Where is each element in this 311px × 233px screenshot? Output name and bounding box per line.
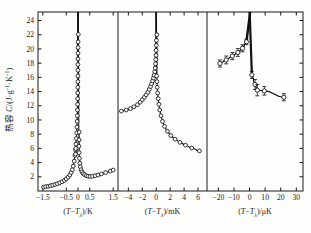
panel-kelvin-data-point xyxy=(104,171,108,175)
panel-kelvin-x-tick-label-4: 1.5 xyxy=(108,193,118,202)
panel-millikelvin-data-point xyxy=(155,85,159,89)
panel-kelvin-data-point xyxy=(76,63,80,67)
panel-kelvin-data-point xyxy=(76,32,80,36)
panel-millikelvin-data-point xyxy=(155,33,159,37)
panel-microkelvin-data-point xyxy=(240,46,244,50)
panel-kelvin-data-point xyxy=(76,51,80,55)
panel-microkelvin-x-tick-label-5: 30 xyxy=(293,193,301,202)
panel-millikelvin-data-point xyxy=(158,108,162,112)
panel-microkelvin-data-point xyxy=(244,40,248,44)
panel-kelvin-curve-right xyxy=(78,34,113,176)
panel-kelvin-data-point xyxy=(100,172,104,176)
panel-millikelvin-data-point xyxy=(119,109,123,113)
y-tick-label-20: 20 xyxy=(26,45,34,54)
panel-millikelvin-data-point xyxy=(178,140,182,144)
panel-millikelvin-data-point xyxy=(161,119,165,123)
panel-millikelvin-data-point xyxy=(165,129,169,133)
panel-microkelvin-xlabel-units: )/μK xyxy=(257,207,272,216)
panel-microkelvin-data-point xyxy=(262,89,266,93)
y-tick-label-8: 8 xyxy=(30,130,34,139)
y-tick-label-24: 24 xyxy=(26,16,34,25)
panel-microkelvin-x-tick-label-2: 0 xyxy=(248,193,252,202)
panel-microkelvin-xlabel-Tlambda: Tλ xyxy=(250,207,257,216)
panel-millikelvin-x-tick-label-1: −2 xyxy=(138,193,146,202)
x-axis-label-panel-microkelvin: (T−Tλ)/μK xyxy=(205,207,305,218)
panel-kelvin-data-point xyxy=(76,80,80,84)
panel-kelvin-data-point xyxy=(77,138,81,142)
panel-kelvin-data-point xyxy=(72,159,76,163)
panel-millikelvin-data-point xyxy=(198,149,202,153)
panel-millikelvin-data-point xyxy=(169,134,173,138)
panel-microkelvin-x-tick-label-0: −20 xyxy=(212,193,224,202)
panel-kelvin-data-point xyxy=(76,40,80,44)
panel-kelvin-data-point xyxy=(76,91,80,95)
panel-kelvin-data-point xyxy=(111,168,115,172)
panel-kelvin-xlabel-Tlambda: Tλ xyxy=(75,207,82,216)
y-tick-label-16: 16 xyxy=(26,73,34,82)
panel-kelvin-data-point xyxy=(76,85,80,89)
panel-kelvin-data-point xyxy=(76,68,80,72)
panel-millikelvin-data-point xyxy=(157,102,161,106)
x-axis-label-panel-millikelvin: (T−Tλ)/mK xyxy=(113,207,213,218)
panel-millikelvin-data-point xyxy=(156,97,160,101)
panel-kelvin-data-point xyxy=(76,74,80,78)
panel-microkelvin-data-point xyxy=(224,58,228,62)
panel-kelvin-x-tick-label-0: −1.5 xyxy=(36,193,50,202)
panel-millikelvin-data-point xyxy=(190,146,194,150)
panel-millikelvin-xlabel-units: )/mK xyxy=(163,207,180,216)
panel-millikelvin-data-point xyxy=(154,48,158,52)
panel-millikelvin-data-point xyxy=(155,74,159,78)
y-tick-label-22: 22 xyxy=(26,30,34,39)
panel-millikelvin-x-tick-label-3: 2 xyxy=(168,193,172,202)
panel-millikelvin-data-point xyxy=(154,58,158,62)
panel-kelvin-x-tick-label-3: 0.5 xyxy=(85,193,95,202)
panel-microkelvin-data-point xyxy=(230,54,234,58)
panel-kelvin-xlabel-units: )/K xyxy=(82,207,93,216)
panel-millikelvin-data-point xyxy=(159,114,163,118)
panel-kelvin-data-point xyxy=(76,97,80,101)
panel-kelvin-data-point xyxy=(76,102,80,106)
panel-kelvin-data-point xyxy=(75,119,79,123)
panel-millikelvin-data-point xyxy=(154,43,158,47)
panel-millikelvin-x-tick-label-2: 0 xyxy=(154,193,158,202)
panel-millikelvin-data-point xyxy=(154,53,158,57)
panel-millikelvin-data-point xyxy=(155,39,159,43)
panel-kelvin-data-point xyxy=(77,130,81,134)
panel-microkelvin-data-point xyxy=(236,50,240,54)
panel-millikelvin-data-point xyxy=(173,137,177,141)
panel-millikelvin-curve-right xyxy=(156,35,199,151)
panel-millikelvin-data-point xyxy=(163,124,167,128)
panel-microkelvin-x-tick-label-3: 10 xyxy=(261,193,269,202)
y-tick-label-18: 18 xyxy=(26,59,34,68)
y-tick-label-2: 2 xyxy=(30,172,34,181)
panel-millikelvin-data-point xyxy=(156,91,160,95)
panel-microkelvin-data-point xyxy=(218,61,222,65)
panel-kelvin-data-point xyxy=(76,108,80,112)
panel-kelvin-data-point xyxy=(76,57,80,61)
panel-microkelvin-x-tick-label-1: −10 xyxy=(228,193,240,202)
panel-millikelvin-data-point xyxy=(153,66,157,70)
panel-microkelvin-asymptote-right xyxy=(250,12,252,75)
panel-kelvin-data-point xyxy=(71,164,75,168)
panel-millikelvin-x-tick-label-0: −4 xyxy=(124,193,132,202)
figure-container: 热容 C/(J·g-1·K-1) 24681012141618202224−1.… xyxy=(0,0,311,233)
panel-millikelvin-x-tick-label-5: 6 xyxy=(196,193,200,202)
y-tick-label-6: 6 xyxy=(30,144,34,153)
panel-microkelvin-x-tick-label-4: 20 xyxy=(277,193,285,202)
panel-kelvin-x-tick-label-1: −0.5 xyxy=(59,193,73,202)
panel-microkelvin-data-point xyxy=(255,88,259,92)
panel-millikelvin-x-tick-label-4: 4 xyxy=(182,193,186,202)
y-tick-label-4: 4 xyxy=(30,158,34,167)
panel-millikelvin-data-point xyxy=(154,62,158,66)
panel-millikelvin-data-point xyxy=(124,108,128,112)
panel-microkelvin-data-point xyxy=(250,73,254,77)
panel-kelvin-data-point xyxy=(75,114,79,118)
panel-millikelvin-data-point xyxy=(184,143,188,147)
panel-kelvin-data-point xyxy=(77,151,81,155)
y-tick-label-14: 14 xyxy=(26,87,34,96)
panel-kelvin-data-point xyxy=(78,156,82,160)
panel-kelvin-x-tick-label-2: 0 xyxy=(76,193,80,202)
panel-kelvin-data-point xyxy=(77,144,81,148)
panel-millikelvin-data-point xyxy=(155,80,159,84)
panel-kelvin-data-point xyxy=(75,125,79,129)
